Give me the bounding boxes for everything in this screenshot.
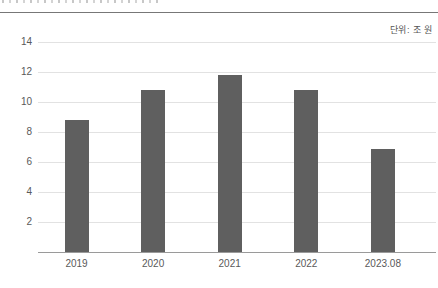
bar-2022	[294, 90, 318, 252]
clipped-header-text	[2, 0, 160, 3]
y-tick-label-8: 8	[6, 126, 32, 138]
gridline-12	[38, 72, 436, 73]
unit-label: 단위: 조 원	[390, 23, 433, 36]
y-tick-label-4: 4	[6, 186, 32, 198]
header-divider-line	[0, 12, 438, 13]
x-tick-label-2023.08: 2023.08	[353, 258, 413, 270]
bar-2019	[65, 120, 89, 252]
x-tick-label-2020: 2020	[123, 258, 183, 270]
x-tick-label-2021: 2021	[200, 258, 260, 270]
y-tick-label-14: 14	[6, 36, 32, 48]
bar-2021	[218, 75, 242, 252]
gridline-14	[38, 42, 436, 43]
y-tick-label-10: 10	[6, 96, 32, 108]
report-chart-page: 단위: 조 원 246810121420192020202120222023.0…	[0, 0, 438, 288]
y-tick-label-2: 2	[6, 216, 32, 228]
x-tick-label-2022: 2022	[276, 258, 336, 270]
y-tick-label-12: 12	[6, 66, 32, 78]
y-tick-label-6: 6	[6, 156, 32, 168]
bar-2020	[141, 90, 165, 252]
x-tick-label-2019: 2019	[47, 258, 107, 270]
bar-2023.08	[371, 149, 395, 253]
x-axis-line	[38, 252, 436, 253]
